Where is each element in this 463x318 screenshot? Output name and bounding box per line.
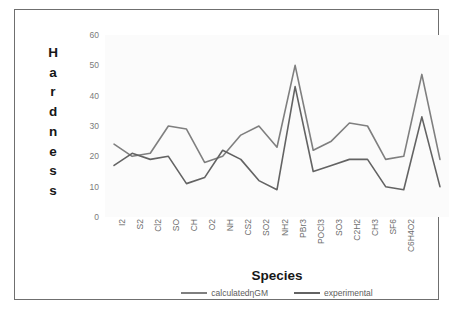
x-axis-tick-label: CH (190, 219, 199, 231)
y-axis-tick-label: 50 (73, 61, 99, 70)
data-series-line (114, 65, 440, 162)
y-axis-title-letter: H (48, 43, 58, 63)
x-axis-title: Species (105, 268, 449, 283)
x-axis-tick-label: I2 (118, 219, 127, 226)
x-axis-tick-label: SO (172, 219, 181, 231)
y-axis-tick-labels: 0102030405060 (73, 28, 99, 224)
legend-label: calculatedηGM (211, 288, 268, 298)
x-axis-tick-label: CS2 (244, 219, 253, 236)
x-axis-tick-label: Cl2 (154, 219, 163, 232)
chart-document-frame: Hardness 0102030405060 I2S2Cl2SOCHO2NHCS… (14, 9, 439, 300)
y-axis-title-letter: d (49, 102, 57, 122)
y-axis-tick-label: 30 (73, 122, 99, 131)
legend-line-swatch (181, 292, 207, 294)
x-axis-tick-label: SF6 (389, 219, 398, 235)
y-axis-title-letter: a (49, 63, 57, 83)
y-axis-tick-label: 0 (73, 213, 99, 222)
x-axis-tick-labels: I2S2Cl2SOCHO2NHCS2SO2NH2PBr3POCl3SO3C2H2… (105, 219, 449, 267)
x-axis-tick-label: CH3 (371, 219, 380, 236)
y-axis-tick-label: 40 (73, 92, 99, 101)
legend-line-swatch (294, 292, 320, 294)
x-axis-tick-label: O2 (208, 219, 217, 230)
x-axis-tick-label: C6H4O2 (407, 219, 416, 252)
x-axis-tick-label: C2H2 (353, 219, 362, 241)
legend-item: calculatedηGM (181, 288, 268, 298)
x-axis-tick-label: NH (226, 219, 235, 231)
y-axis-title-letter: e (49, 142, 57, 162)
x-axis-tick-label: POCl3 (317, 219, 326, 244)
legend-item: experimental (294, 288, 373, 298)
y-axis-title-letter: n (49, 122, 57, 142)
x-axis-tick-label: SO3 (335, 219, 344, 236)
data-series-line (114, 87, 440, 190)
chart-legend: calculatedηGMexperimental (105, 288, 449, 298)
x-axis-tick-label: NH2 (281, 219, 290, 236)
y-axis-title-letter: r (50, 82, 55, 102)
x-axis-tick-label: PBr3 (299, 219, 308, 238)
y-axis-title-letter: s (49, 181, 57, 201)
y-axis-tick-label: 20 (73, 152, 99, 161)
y-axis-tick-label: 10 (73, 183, 99, 192)
y-axis-title-letter: s (49, 161, 57, 181)
plot-area (105, 35, 449, 217)
y-axis-title: Hardness (41, 43, 65, 201)
legend-label: experimental (324, 288, 373, 298)
x-axis-tick-label: SO2 (262, 219, 271, 236)
y-axis-tick-label: 60 (73, 31, 99, 40)
line-chart-svg (105, 35, 449, 217)
x-axis-tick-label: S2 (136, 219, 145, 229)
